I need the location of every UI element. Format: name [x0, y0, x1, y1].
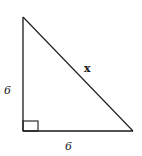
right-triangle-diagram: 6 6 x — [0, 0, 142, 156]
bottom-leg-label: 6 — [65, 140, 72, 153]
left-leg-label: 6 — [4, 84, 11, 97]
hypotenuse-label: x — [84, 62, 91, 75]
triangle — [23, 17, 133, 131]
hypotenuse — [23, 17, 133, 131]
right-angle-marker — [23, 121, 38, 131]
